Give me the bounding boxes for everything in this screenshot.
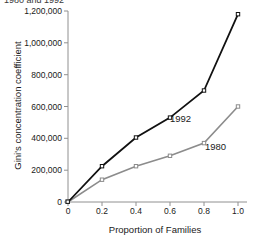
series-markers-1992 — [66, 13, 240, 204]
chart-figure: 1980 and 1992 Gini's concentration coeff… — [0, 0, 253, 243]
series-line-1980 — [68, 107, 238, 203]
series-markers-1980 — [66, 105, 240, 204]
chart-plot-svg — [0, 0, 253, 243]
x-tick-marks — [68, 202, 238, 206]
series-line-1992 — [68, 14, 238, 202]
y-tick-marks — [64, 11, 68, 202]
